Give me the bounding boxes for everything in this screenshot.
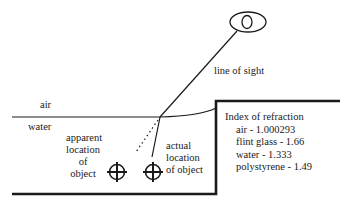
actual-location-line: of object — [166, 164, 203, 176]
actual-location-line: location — [166, 152, 203, 164]
actual-location-line: actual — [166, 140, 203, 152]
apparent-location-label: apparent location of object — [66, 132, 100, 180]
eye-icon — [230, 12, 266, 32]
apparent-ray-dotted — [136, 120, 158, 152]
legend-item-polystyrene: polystyrene - 1.49 — [225, 161, 312, 174]
apparent-location-line: location — [66, 144, 100, 156]
apparent-object-icon — [107, 162, 127, 182]
apparent-location-line: object — [66, 168, 100, 180]
apparent-location-line: of — [66, 156, 100, 168]
legend-title: Index of refraction — [225, 111, 312, 124]
water-label: water — [28, 121, 51, 133]
legend-item-water: water - 1.333 — [225, 149, 312, 162]
legend-item-air: air - 1.000293 — [225, 124, 312, 137]
actual-object-icon — [143, 162, 163, 182]
air-label: air — [40, 99, 51, 111]
line-of-sight-label: line of sight — [214, 65, 264, 77]
refracted-ray — [152, 117, 160, 157]
refraction-index-legend: Index of refraction air - 1.000293 flint… — [225, 111, 312, 174]
actual-location-label: actual location of object — [166, 140, 203, 176]
legend-item-flint-glass: flint glass - 1.66 — [225, 136, 312, 149]
apparent-location-line: apparent — [66, 132, 100, 144]
